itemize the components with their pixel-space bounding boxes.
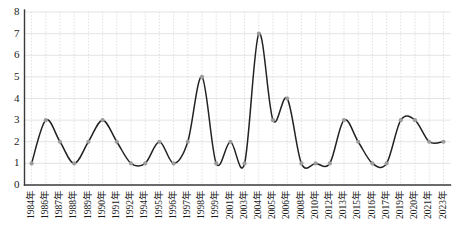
y-axis-tick-labels: 012345678 (14, 5, 20, 190)
data-point (143, 161, 147, 165)
x-tick-label: 1998年 (195, 190, 206, 219)
x-tick-label: 2012年 (323, 190, 334, 219)
x-tick-label: 1988年 (67, 190, 78, 219)
y-tick-label: 7 (14, 27, 20, 39)
data-point (172, 161, 176, 165)
x-tick-label: 1999年 (209, 190, 220, 219)
x-tick-label: 1984年 (25, 190, 36, 219)
y-tick-label: 6 (14, 48, 20, 60)
x-tick-label: 2020年 (408, 190, 419, 219)
data-point (129, 161, 133, 165)
data-point (271, 118, 275, 122)
chart-container: 0123456781984年1986年1987年1988年1989年1990年1… (0, 0, 456, 236)
data-point (427, 140, 431, 144)
data-point (413, 118, 417, 122)
x-tick-label: 2005年 (266, 190, 277, 219)
x-tick-label: 1989年 (82, 190, 93, 219)
data-point (186, 140, 190, 144)
data-point (115, 140, 119, 144)
x-tick-label: 2021年 (422, 190, 433, 219)
data-point (86, 140, 90, 144)
x-tick-label: 1996年 (167, 190, 178, 219)
y-tick-label: 0 (14, 178, 20, 190)
data-point (72, 161, 76, 165)
y-tick-label: 5 (14, 70, 20, 82)
x-tick-label: 2004年 (252, 190, 263, 219)
x-tick-label: 2013年 (337, 190, 348, 219)
x-tick-label: 2008年 (295, 190, 306, 219)
data-point (441, 140, 445, 144)
data-point (399, 118, 403, 122)
data-point (228, 140, 232, 144)
y-tick-label: 8 (14, 5, 20, 17)
x-tick-label: 1987年 (53, 190, 64, 219)
x-tick-label: 1997年 (181, 190, 192, 219)
x-tick-label: 2010年 (309, 190, 320, 219)
x-tick-label: 1995年 (153, 190, 164, 219)
data-point (342, 118, 346, 122)
data-point (385, 161, 389, 165)
x-tick-label: 2006年 (280, 190, 291, 219)
x-tick-label: 2003年 (238, 190, 249, 219)
data-point (299, 161, 303, 165)
line-chart: 0123456781984年1986年1987年1988年1989年1990年1… (0, 0, 456, 236)
series-line (32, 33, 444, 168)
data-point (214, 161, 218, 165)
x-tick-label: 2019年 (394, 190, 405, 219)
x-tick-label: 1991年 (110, 190, 121, 219)
x-tick-label: 2016年 (366, 190, 377, 219)
data-point (314, 161, 318, 165)
data-point (370, 161, 374, 165)
y-tick-label: 2 (14, 135, 20, 147)
x-tick-label: 1986年 (39, 190, 50, 219)
y-tick-label: 1 (14, 156, 20, 168)
data-point (200, 75, 204, 79)
data-point (44, 118, 48, 122)
x-tick-label: 1994年 (138, 190, 149, 219)
x-tick-label: 2023年 (437, 190, 448, 219)
data-point (356, 140, 360, 144)
y-tick-label: 3 (14, 113, 20, 125)
x-tick-label: 1990年 (96, 190, 107, 219)
data-point (285, 96, 289, 100)
x-tick-label: 2015年 (351, 190, 362, 219)
data-point (58, 140, 62, 144)
data-point (101, 118, 105, 122)
data-point (157, 140, 161, 144)
data-point (257, 32, 261, 36)
data-point (243, 161, 247, 165)
x-tick-label: 2001年 (224, 190, 235, 219)
data-point (30, 161, 34, 165)
y-tick-label: 4 (14, 92, 20, 104)
x-tick-label: 2017年 (380, 190, 391, 219)
x-tick-label: 1992年 (124, 190, 135, 219)
x-axis-tick-labels: 1984年1986年1987年1988年1989年1990年1991年1992年… (25, 190, 448, 219)
data-series (32, 33, 444, 168)
data-point (328, 161, 332, 165)
